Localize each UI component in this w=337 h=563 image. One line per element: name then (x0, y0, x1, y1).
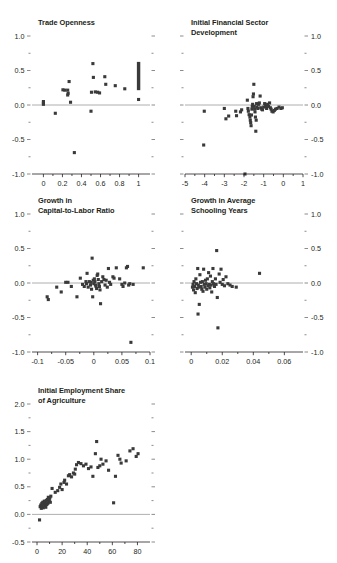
data-point (250, 124, 253, 127)
x-tick-label: 0.06 (277, 357, 291, 366)
data-point (137, 452, 140, 455)
data-point (132, 283, 135, 286)
y-tick-label: -1.0 (311, 170, 323, 179)
data-point (59, 482, 62, 485)
data-point (90, 288, 93, 291)
data-point (201, 280, 204, 283)
data-point (214, 277, 217, 280)
x-tick-label: 0.4 (76, 179, 86, 188)
panel-title: Growth in Average (191, 196, 255, 205)
data-point (268, 101, 271, 104)
data-point (42, 100, 45, 103)
y-tick-label: -0.5 (311, 135, 323, 144)
x-tick-label: 20 (58, 547, 66, 556)
data-point (96, 272, 99, 275)
data-point (105, 279, 108, 282)
y-tick-label: 0.0 (311, 279, 321, 288)
panel-title: Trade Openness (38, 18, 95, 27)
y-tick-label: 0.5 (15, 66, 25, 75)
data-point (235, 286, 238, 289)
data-point (256, 107, 259, 110)
panel-title: Capital-to-Labor Ratio (38, 206, 115, 215)
data-point (109, 283, 112, 286)
x-tick-label: 1 (301, 179, 305, 188)
data-point (246, 99, 249, 102)
x-tick-label: 0.04 (246, 357, 260, 366)
x-tick-label: 0 (35, 547, 39, 556)
data-point (125, 459, 128, 462)
data-point (206, 277, 209, 280)
data-point (123, 87, 126, 90)
data-point (83, 285, 86, 288)
y-tick-label: 2.0 (15, 400, 25, 409)
panel-growth-average-schooling-years: Growth in AverageSchooling Years00.020.0… (168, 190, 337, 368)
data-point (115, 266, 118, 269)
data-point (47, 298, 50, 301)
data-point (74, 468, 77, 471)
data-point (94, 452, 97, 455)
data-point (118, 277, 121, 280)
data-point (135, 455, 138, 458)
x-tick-label: 60 (108, 547, 116, 556)
data-point (68, 80, 71, 83)
x-tick-label: 1 (137, 179, 141, 188)
data-point (103, 75, 106, 78)
x-tick-label: 0.1 (145, 357, 155, 366)
data-point (98, 288, 101, 291)
data-point (253, 105, 256, 108)
data-point (98, 91, 101, 94)
data-point (250, 108, 253, 111)
x-tick-label: 0 (92, 357, 96, 366)
data-point (137, 98, 140, 101)
data-point (44, 506, 47, 509)
data-point (55, 286, 58, 289)
data-point (51, 487, 54, 490)
data-point (79, 277, 82, 280)
data-point (203, 110, 206, 113)
data-point (223, 107, 226, 110)
vertical-bar-marker (137, 62, 140, 90)
y-tick-label: -0.5 (311, 313, 323, 322)
data-point (93, 280, 96, 283)
data-point (89, 284, 92, 287)
data-point (99, 458, 102, 461)
data-point (142, 266, 145, 269)
y-tick-label: -0.5 (12, 135, 24, 144)
x-tick-label: 80 (133, 547, 141, 556)
data-point (216, 326, 219, 329)
x-tick-label: -2 (241, 179, 247, 188)
data-point (54, 112, 57, 115)
y-tick-label: 1.0 (311, 32, 321, 41)
data-point (234, 110, 237, 113)
data-point (240, 108, 243, 111)
data-point (194, 277, 197, 280)
data-point (56, 489, 59, 492)
data-point (105, 459, 108, 462)
data-point (224, 275, 227, 278)
data-points (191, 249, 261, 329)
data-point (200, 285, 203, 288)
data-point (223, 284, 226, 287)
data-point (91, 295, 94, 298)
panel-title: Initial Financial Sector (191, 18, 268, 27)
data-point (60, 290, 63, 293)
panel-trade-openness: Trade Openness00.20.40.60.81-1.0-0.50.00… (0, 12, 168, 190)
data-point (66, 89, 69, 92)
data-point (95, 440, 98, 443)
data-points (202, 83, 284, 176)
data-point (91, 475, 94, 478)
data-point (99, 302, 102, 305)
data-point (123, 281, 126, 284)
data-point (250, 113, 253, 116)
y-tick-label: 0.5 (15, 482, 25, 491)
x-tick-label: 40 (83, 547, 91, 556)
data-point (73, 473, 76, 476)
data-point (224, 117, 227, 120)
data-point (254, 130, 257, 133)
data-point (202, 268, 205, 271)
x-tick-label: -0.1 (31, 357, 43, 366)
x-tick-label: 0 (41, 179, 45, 188)
five-panel-scatter-figure: Trade Openness00.20.40.60.81-1.0-0.50.00… (0, 0, 337, 563)
data-point (91, 257, 94, 260)
data-point (97, 278, 100, 281)
